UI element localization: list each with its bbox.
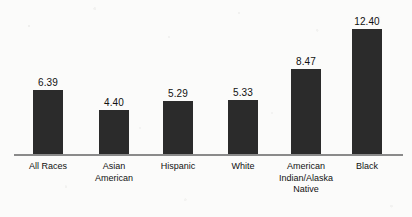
bar-category-label-line: Black xyxy=(314,161,412,173)
bar-category-label: Black xyxy=(314,161,412,173)
bar-value-label: 8.47 xyxy=(273,56,339,67)
bar-category-label-line: American xyxy=(61,173,167,185)
bar-group: 5.29Hispanic xyxy=(163,0,193,217)
category-axis-line xyxy=(14,154,403,156)
bar-group: 4.40AsianAmerican xyxy=(99,0,129,217)
bar xyxy=(352,29,382,154)
bar-chart: 6.39All Races4.40AsianAmerican5.29Hispan… xyxy=(0,0,412,217)
bar xyxy=(228,100,258,154)
bar-value-label: 5.33 xyxy=(210,87,276,98)
bar-group: 6.39All Races xyxy=(33,0,63,217)
bar-value-label: 6.39 xyxy=(15,77,81,88)
bar xyxy=(163,101,193,154)
bar xyxy=(99,110,129,154)
bar-category-label-line: Indian/Alaska xyxy=(253,173,359,185)
bar-category-label-line: Native xyxy=(253,184,359,196)
bar-value-label: 4.40 xyxy=(81,97,147,108)
bar-value-label: 12.40 xyxy=(334,16,400,27)
bar-group: 12.40Black xyxy=(352,0,382,217)
bar-value-label: 5.29 xyxy=(145,88,211,99)
bar xyxy=(33,90,63,154)
bar-group: 8.47AmericanIndian/AlaskaNative xyxy=(291,0,321,217)
bar xyxy=(291,69,321,154)
